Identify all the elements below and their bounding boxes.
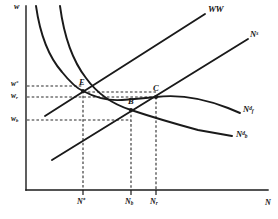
point-B-marker [129,108,133,112]
wr-subscript: r [16,95,18,100]
wb-subscript: b [16,118,18,123]
nb-subscript: b [131,200,134,206]
y-tick-label-wr: wr [11,92,18,100]
labor-demand-curve-b [60,6,232,136]
diagram-canvas [0,0,278,219]
ndf-subscript: f [252,108,254,114]
labor-market-diagram: w N WW Ns Ndf Ndb E B C w* wr wb N* Nb N… [0,0,278,219]
x-tick-label-nr: Nr [150,198,158,206]
nr-subscript: r [156,200,158,206]
point-E-marker [81,89,85,93]
wstar-superscript: * [16,80,18,85]
nstar-superscript: * [83,197,86,203]
point-E-label: E [79,78,85,87]
point-B-label: B [128,97,134,106]
labor-supply-curve-label: Ns [250,30,258,39]
point-C-marker [154,95,158,99]
y-tick-label-wb: wb [11,115,18,123]
labor-demand-b-curve-label: Ndb [236,130,248,139]
point-C-label: C [153,84,159,93]
labor-supply-line [52,39,248,160]
labor-demand-f-curve-label: Ndf [243,105,254,114]
ns-superscript: s [256,30,258,36]
x-tick-label-nb: Nb [125,198,133,206]
guide-lines-group [27,86,156,190]
y-tick-label-wstar: w* [11,80,18,88]
x-tick-label-nstar: N* [77,198,85,206]
ww-curve-label: WW [208,5,223,14]
y-axis-label: w [14,3,19,11]
x-axis-label: N [265,199,271,207]
x-axis-ticks-group [83,190,156,195]
ndb-subscript: b [245,133,248,139]
